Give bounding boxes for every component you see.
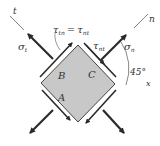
x-axis-label: x bbox=[146, 79, 151, 88]
sigma-t-label: σt bbox=[18, 41, 28, 53]
n-axis-line bbox=[134, 14, 148, 28]
sigma-n-label: σn bbox=[124, 41, 135, 53]
t-axis-line bbox=[10, 16, 24, 30]
face-A-label: A bbox=[57, 92, 65, 103]
t-axis-label: t bbox=[13, 6, 17, 16]
lower-right-normal-arrow bbox=[103, 110, 124, 133]
tau-nt-label: τnt bbox=[93, 40, 105, 52]
stress-element-diagram: t n x σt σn τtn=τnt τnt 45° B C A bbox=[0, 0, 160, 146]
diagram-svg: t n x σt σn τtn=τnt τnt 45° B C A bbox=[0, 0, 160, 146]
lower-left-normal-arrow bbox=[30, 110, 53, 133]
face-B-label: B bbox=[57, 70, 65, 81]
sigma-t-arrow bbox=[28, 34, 53, 59]
n-axis-label: n bbox=[149, 14, 155, 24]
angle-label: 45° bbox=[129, 67, 146, 77]
tau-tn-equals-label: τtn=τnt bbox=[53, 24, 90, 36]
face-C-label: C bbox=[88, 69, 96, 80]
